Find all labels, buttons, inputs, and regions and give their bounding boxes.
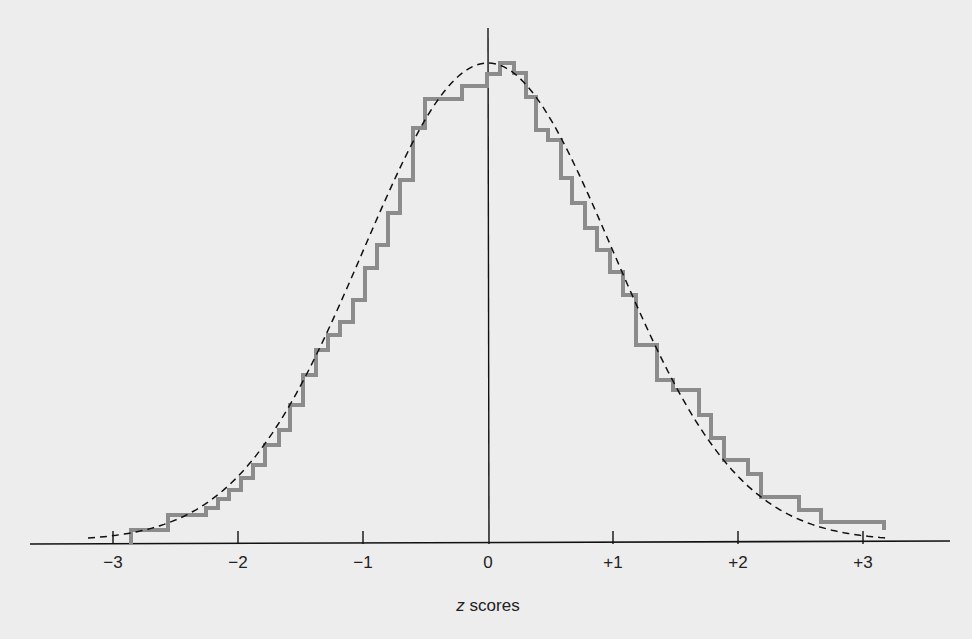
x-axis-title-variable: z — [456, 596, 465, 615]
empirical-step-histogram — [131, 63, 884, 544]
x-tick-label: +3 — [853, 553, 872, 573]
mean-vertical-line — [488, 28, 489, 544]
chart: −3−2−10+1+2+3 z scores — [0, 0, 972, 639]
x-tick-label: −3 — [103, 553, 122, 573]
x-tick-label: 0 — [483, 553, 492, 573]
x-axis-title: z scores — [456, 596, 519, 616]
x-axis-title-rest: scores — [465, 596, 520, 615]
x-tick-label: −1 — [353, 553, 372, 573]
x-axis-line — [30, 541, 950, 544]
x-tick-label: +1 — [603, 553, 622, 573]
plot-area — [0, 0, 972, 639]
x-tick-label: +2 — [728, 553, 747, 573]
x-tick-label: −2 — [228, 553, 247, 573]
